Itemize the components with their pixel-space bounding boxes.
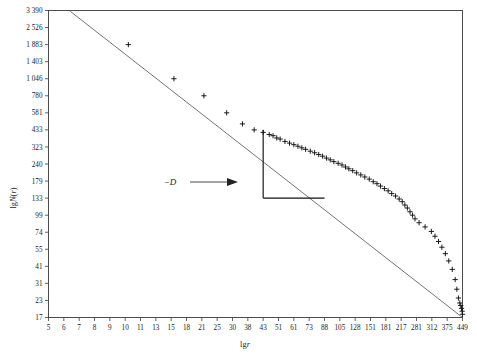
x-tick-label: 7 — [77, 324, 81, 332]
x-tick-label: 43 — [260, 324, 268, 332]
plot-frame — [49, 11, 463, 318]
y-tick-label: 17 — [35, 314, 43, 322]
y-tick-label: 23 — [35, 297, 43, 305]
data-point-marker — [389, 191, 394, 196]
y-tick-label: 323 — [32, 144, 43, 152]
slope-annotation: −D — [164, 177, 238, 187]
x-tick-label: 13 — [152, 324, 160, 332]
data-point-marker — [201, 93, 206, 98]
x-tick-label: 151 — [365, 324, 376, 332]
y-tick-label: 74 — [35, 229, 43, 237]
x-axis-title: lgr — [240, 340, 251, 349]
x-tick-label: 8 — [93, 324, 97, 332]
x-tick-label: 73 — [306, 324, 314, 332]
data-point-marker — [252, 127, 257, 132]
data-point-marker — [402, 202, 407, 207]
data-point-marker — [400, 199, 405, 204]
x-tick-label: 128 — [350, 324, 361, 332]
data-point-marker — [429, 229, 434, 234]
fit-line — [71, 12, 463, 318]
data-point-marker — [240, 121, 245, 126]
x-tick-label: 281 — [411, 324, 422, 332]
y-tick-label: 581 — [32, 109, 43, 117]
regression-fit-line — [71, 12, 463, 318]
x-tick-label: 449 — [457, 324, 468, 332]
data-point-marker — [443, 251, 448, 256]
data-point-marker — [456, 295, 461, 300]
data-point-marker — [171, 76, 176, 81]
x-tick-label: 375 — [442, 324, 453, 332]
data-point-marker — [126, 42, 131, 47]
data-point-marker — [423, 224, 428, 229]
data-point-marker — [367, 177, 372, 182]
x-tick-label: 10 — [122, 324, 130, 332]
data-point-marker — [416, 220, 421, 225]
data-point-marker — [412, 216, 417, 221]
scatter-plot: 3 3902 5261 8831 4031 046780581433323240… — [0, 0, 477, 358]
data-point-marker — [278, 136, 283, 141]
y-tick-label: 41 — [35, 263, 43, 271]
x-tick-label: 88 — [321, 324, 329, 332]
data-point-marker — [410, 213, 415, 218]
data-point-marker — [405, 205, 410, 210]
data-point-marker — [450, 267, 455, 272]
x-tick-label: 38 — [244, 324, 252, 332]
x-tick-label: 30 — [229, 324, 237, 332]
data-point-marker — [446, 258, 451, 263]
annotation-arrow-head — [227, 178, 238, 186]
x-tick-label: 105 — [334, 324, 345, 332]
y-axis-title: lgN(r) — [9, 187, 18, 208]
data-point-marker — [267, 132, 272, 137]
y-tick-label: 433 — [32, 126, 43, 134]
x-tick-label: 25 — [214, 324, 222, 332]
data-point-marker — [397, 196, 402, 201]
y-title-paren-close: ) — [9, 187, 18, 190]
slope-triangle — [263, 130, 324, 198]
data-point-marker — [459, 306, 464, 311]
x-tick-label: 61 — [290, 324, 298, 332]
x-title-r: r — [247, 340, 251, 349]
y-tick-label: 2 526 — [26, 24, 43, 32]
data-point-marker — [378, 183, 383, 188]
y-tick-label: 55 — [35, 246, 43, 254]
data-point-marker — [439, 245, 444, 250]
data-point-marker — [407, 209, 412, 214]
data-point-marker — [454, 287, 459, 292]
y-tick-label: 1 883 — [26, 41, 43, 49]
data-point-marker — [432, 234, 437, 239]
y-tick-label: 1 403 — [26, 58, 43, 66]
x-tick-label: 6 — [62, 324, 66, 332]
plot-border — [49, 11, 463, 318]
data-point-marker — [453, 277, 458, 282]
x-axis-ticks — [49, 318, 463, 322]
chart-root: 3 3902 5261 8831 4031 046780581433323240… — [0, 0, 477, 358]
slope-label: −D — [164, 177, 177, 187]
y-tick-label: 99 — [35, 212, 43, 220]
x-axis-tick-labels: 5678910111315182125303843516173881051281… — [47, 324, 469, 332]
y-tick-label: 31 — [35, 280, 43, 288]
data-point-marker — [282, 139, 287, 144]
data-point-marker — [457, 300, 462, 305]
y-tick-label: 3 390 — [26, 7, 43, 15]
x-tick-label: 15 — [168, 324, 176, 332]
y-axis-tick-labels: 3 3902 5261 8831 4031 046780581433323240… — [26, 7, 43, 322]
data-point-marker — [261, 130, 266, 135]
data-point-marker — [224, 110, 229, 115]
x-tick-label: 11 — [137, 324, 144, 332]
y-tick-label: 240 — [32, 161, 43, 169]
x-tick-label: 5 — [47, 324, 51, 332]
data-point-marker — [393, 193, 398, 198]
y-tick-label: 133 — [32, 195, 43, 203]
y-tick-label: 780 — [32, 92, 43, 100]
data-points — [126, 42, 465, 317]
y-tick-label: 179 — [32, 178, 43, 186]
data-point-marker — [436, 239, 441, 244]
x-tick-label: 312 — [426, 324, 437, 332]
x-tick-label: 21 — [198, 324, 206, 332]
x-tick-label: 18 — [183, 324, 191, 332]
x-tick-label: 181 — [380, 324, 391, 332]
y-axis-ticks — [45, 11, 49, 318]
x-tick-label: 217 — [396, 324, 407, 332]
x-tick-label: 51 — [275, 324, 283, 332]
y-tick-label: 1 046 — [26, 75, 43, 83]
